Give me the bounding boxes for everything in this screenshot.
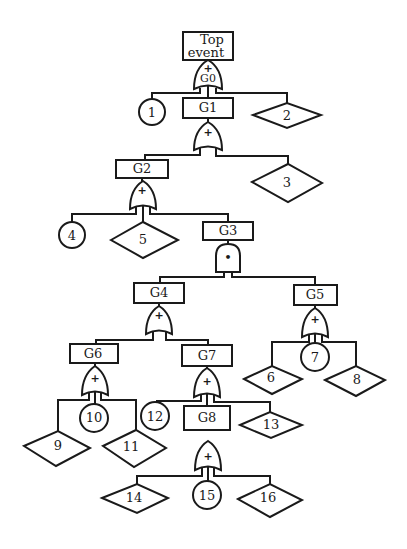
svg-text:+: + [310,313,319,326]
connector [232,272,315,285]
undeveloped-event-11: 11 [103,430,166,467]
svg-text:G6: G6 [84,346,103,361]
undeveloped-event-3: 3 [252,164,322,202]
svg-text:+: + [90,372,99,385]
gate-g3: G3 • [203,222,253,272]
basic-event-10: 10 [80,404,108,432]
fault-tree-diagram: Top event + G0 1 G1 + 2 3 G2 [0,0,407,549]
gate-g8: G8 + [184,406,230,470]
svg-text:16: 16 [260,490,277,505]
connector [160,272,224,283]
connector [214,468,270,484]
connector [216,148,288,164]
svg-text:1: 1 [148,105,156,120]
svg-text:4: 4 [68,228,76,243]
gate-g1: G1 + [183,98,233,150]
svg-text:+: + [137,184,146,197]
svg-text:15: 15 [199,488,216,503]
connector [137,468,202,485]
gate-g6: G6 + [70,344,118,395]
basic-event-1: 1 [139,99,165,125]
svg-text:8: 8 [353,372,361,387]
svg-text:+: + [154,309,163,322]
svg-text:•: • [224,251,231,264]
svg-text:G4: G4 [150,285,169,300]
svg-text:+: + [202,375,211,388]
svg-text:13: 13 [263,417,280,432]
basic-event-12: 12 [141,402,169,430]
top-event-label-line2: event [188,45,225,60]
svg-text:G7: G7 [198,348,217,363]
undeveloped-event-13: 13 [240,412,302,438]
svg-text:3: 3 [283,175,291,190]
svg-text:10: 10 [86,410,103,425]
undeveloped-event-2: 2 [253,103,321,128]
svg-text:G2: G2 [133,161,152,176]
svg-text:12: 12 [147,409,164,424]
undeveloped-event-5: 5 [111,222,178,258]
svg-text:7: 7 [311,350,319,365]
svg-text:6: 6 [267,370,275,385]
svg-text:11: 11 [123,439,140,454]
connector [150,207,228,222]
basic-event-15: 15 [193,481,221,509]
svg-text:14: 14 [126,490,143,505]
gate-g4: G4 + [134,283,184,334]
undeveloped-event-8: 8 [325,366,385,396]
gate-g7: G7 + [182,345,232,397]
gate-label: G0 [200,72,216,85]
svg-text:5: 5 [139,232,147,247]
connector [96,332,153,344]
basic-event-4: 4 [59,222,85,248]
svg-text:9: 9 [54,438,62,453]
connector [145,148,200,160]
svg-text:G5: G5 [306,287,325,302]
undeveloped-event-9: 9 [24,431,90,466]
undeveloped-event-6: 6 [244,366,302,394]
svg-text:G8: G8 [198,410,217,425]
connector [72,207,136,222]
svg-text:G3: G3 [219,223,238,238]
top-event: Top event [183,32,233,61]
svg-text:2: 2 [283,108,291,123]
gate-g2: G2 + [116,160,168,209]
undeveloped-event-14: 14 [102,484,168,513]
basic-event-7: 7 [301,343,329,371]
svg-text:+: + [203,450,212,463]
svg-text:+: + [203,126,212,139]
gate-label: G1 [199,100,218,115]
gate-g5: G5 + [294,285,337,337]
undeveloped-event-16: 16 [238,484,302,517]
